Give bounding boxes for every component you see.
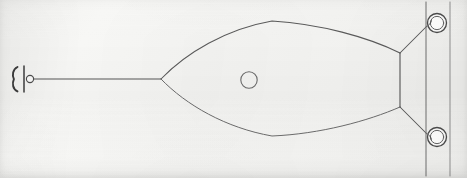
paper-background [0,0,467,178]
shaft-end-hub-circle [26,75,33,82]
upper-ring-eyelet-inner [430,16,443,29]
line-drawing-svg [0,0,467,178]
lower-ring-eyelet-inner [430,130,443,143]
figure-canvas: Technical line drawing — plan view of a … [0,0,467,178]
